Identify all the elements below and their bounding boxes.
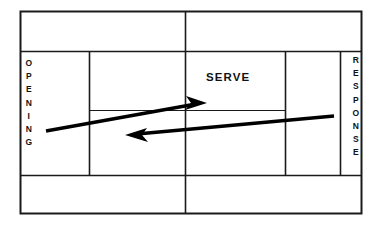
response-label-char: E — [349, 67, 363, 80]
response-label: R E S P O N S E — [349, 54, 363, 160]
opening-label-char: P — [22, 70, 36, 83]
opening-label-char: N — [22, 97, 36, 110]
response-label-char: O — [349, 107, 363, 120]
response-label-char: S — [349, 80, 363, 93]
opening-label-char: O — [22, 57, 36, 70]
response-label-char: P — [349, 94, 363, 107]
tennis-court-diagram: SERVE O P E N I N G R E S P O N S E — [0, 0, 383, 227]
opening-label-char: G — [22, 136, 36, 149]
opening-label-char: E — [22, 83, 36, 96]
court-lines-svg — [0, 0, 383, 227]
court-outer-boundary — [21, 12, 362, 214]
response-label-char: E — [349, 146, 363, 159]
response-label-char: N — [349, 120, 363, 133]
opening-label-char: N — [22, 123, 36, 136]
opening-label-char: I — [22, 110, 36, 123]
opening-label: O P E N I N G — [22, 57, 36, 149]
response-label-char: R — [349, 54, 363, 67]
response-label-char: S — [349, 133, 363, 146]
serve-label: SERVE — [206, 71, 250, 84]
